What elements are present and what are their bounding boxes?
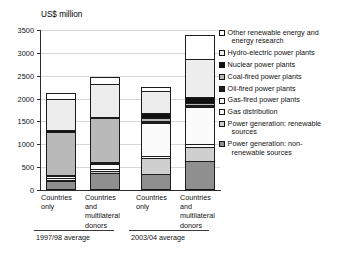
bar-segment <box>186 148 214 162</box>
x-axis-label: Countriesonly <box>136 193 178 211</box>
chart-root: US$ million 0500100015002000250030003500… <box>0 0 349 255</box>
legend-item[interactable]: Nuclear power plants <box>219 61 349 69</box>
y-tick-label: 1000 <box>8 140 34 149</box>
legend-swatch-icon <box>219 50 225 56</box>
legend-label: Gas distribution <box>228 108 278 116</box>
legend-label: Power generation: renewablesources <box>228 120 322 137</box>
legend-label: Other renewable energy andenergy researc… <box>228 29 319 46</box>
bar-segment <box>186 162 214 189</box>
group-label: 1997/98 average <box>36 233 90 242</box>
bar-segment <box>142 92 170 114</box>
y-tick-label: 2000 <box>8 95 34 104</box>
bar-segment <box>91 119 119 163</box>
legend-swatch-icon <box>219 141 225 147</box>
x-axis-label-line: multilateral <box>85 211 127 220</box>
x-axis-label-line: Countries <box>136 193 178 202</box>
legend-swatch-icon <box>219 62 225 68</box>
legend-label: Hydro-electric power plants <box>228 49 315 57</box>
legend-swatch-icon <box>219 109 225 115</box>
x-axis-label-line: donors <box>180 221 222 230</box>
legend-swatch-icon <box>219 30 225 36</box>
bar-segment <box>186 60 214 98</box>
legend-item[interactable]: Other renewable energy andenergy researc… <box>219 29 349 46</box>
stacked-bar <box>141 87 171 190</box>
x-axis-line <box>40 190 221 191</box>
bar-segment <box>47 182 75 189</box>
legend-label: Coal-fired power plants <box>228 73 302 81</box>
bar-segment <box>186 108 214 145</box>
legend-swatch-icon <box>219 98 225 104</box>
y-tick-label: 3500 <box>8 26 34 35</box>
legend-label: Nuclear power plants <box>228 61 296 69</box>
legend-swatch-icon <box>219 121 225 127</box>
x-axis-label: Countriesandmultilateraldonors <box>85 193 127 230</box>
legend-label-line2: renewable sources <box>228 149 303 157</box>
x-axis-label-line: only <box>41 202 83 211</box>
group-rule <box>129 230 209 231</box>
stacked-bar <box>185 35 215 190</box>
x-axis-label: Countriesonly <box>41 193 83 211</box>
plot-area: US$ million 0500100015002000250030003500… <box>0 0 225 255</box>
legend-item[interactable]: Gas distribution <box>219 108 349 116</box>
y-tick-label: 0 <box>8 186 34 195</box>
bar-segment <box>91 174 119 189</box>
legend-item[interactable]: Gas-fired power plants <box>219 96 349 104</box>
legend-item[interactable]: Hydro-electric power plants <box>219 49 349 57</box>
bar-segment <box>47 100 75 131</box>
y-tick-label: 3000 <box>8 49 34 58</box>
stacked-bar <box>90 77 120 190</box>
legend-label-line2: sources <box>228 128 322 136</box>
bar-segment <box>91 78 119 85</box>
legend-item[interactable]: Coal-fired power plants <box>219 73 349 81</box>
bar-segment <box>91 85 119 118</box>
bar-segment <box>142 159 170 174</box>
group-label: 2003/04 average <box>131 233 185 242</box>
legend-item[interactable]: Oil-fired power plants <box>219 85 349 93</box>
legend-label: Power generation: non-renewable sources <box>228 140 303 157</box>
x-axis-label-line: and <box>85 202 127 211</box>
x-axis-label-line: Countries <box>41 193 83 202</box>
legend-swatch-icon <box>219 86 225 92</box>
y-tick-label: 2500 <box>8 72 34 81</box>
y-axis-title: US$ million <box>41 10 82 19</box>
legend-swatch-icon <box>219 74 225 80</box>
x-axis-label: Countriesandmultilateraldonors <box>180 193 222 230</box>
legend-label: Gas-fired power plants <box>228 96 300 104</box>
legend-label: Oil-fired power plants <box>228 85 296 93</box>
x-axis-label-line: multilateral <box>180 211 222 220</box>
y-tick-label: 1500 <box>8 117 34 126</box>
bars-layer <box>40 30 221 190</box>
y-tick-label: 500 <box>8 163 34 172</box>
x-axis-label-line: Countries <box>180 193 222 202</box>
group-rule <box>34 230 114 231</box>
x-axis-label-line: only <box>136 202 178 211</box>
x-axis-label-line: donors <box>85 221 127 230</box>
bar-segment <box>47 133 75 176</box>
legend-item[interactable]: Power generation: renewablesources <box>219 120 349 137</box>
chart-legend: Other renewable energy andenergy researc… <box>219 29 349 160</box>
bar-segment <box>142 175 170 189</box>
x-axis-label-line: Countries <box>85 193 127 202</box>
stacked-bar <box>46 93 76 190</box>
legend-label-line2: energy research <box>228 37 319 45</box>
bar-segment <box>142 124 170 157</box>
legend-item[interactable]: Power generation: non-renewable sources <box>219 140 349 157</box>
x-axis-label-line: and <box>180 202 222 211</box>
bar-segment <box>186 36 214 60</box>
